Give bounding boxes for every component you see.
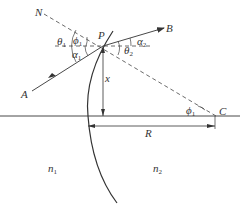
- x-arrow-down-icon: [101, 109, 105, 116]
- alpha1-arc: [85, 46, 88, 56]
- medium-n1-label: n1: [48, 163, 57, 176]
- point-p-label: P: [98, 30, 105, 41]
- x-dimension-label: x: [105, 73, 110, 84]
- medium-n2-label: n2: [153, 163, 162, 176]
- refraction-diagram: N P A B C θ1 ϕ1 α1 α2 θ2 ϕ1 x R n1 n2: [0, 0, 248, 209]
- phi1-arc: [86, 37, 87, 46]
- incident-arrow-icon: [48, 73, 56, 78]
- r-arrow-right-icon: [207, 124, 215, 128]
- diagram-graphics: [0, 0, 248, 209]
- theta2-arc: [118, 41, 120, 55]
- point-n-label: N: [35, 7, 42, 18]
- refracted-ray: [103, 28, 164, 46]
- phi1-label: ϕ1: [73, 35, 82, 48]
- theta2-label: θ2: [124, 45, 133, 58]
- alpha2-label: α2: [137, 36, 146, 49]
- phi1-c-label: ϕ1: [186, 105, 195, 118]
- alpha1-label: α1: [72, 49, 81, 62]
- normal-line: [44, 14, 216, 116]
- point-b-label: B: [166, 23, 173, 34]
- point-c-label: C: [219, 106, 226, 117]
- point-a-label: A: [21, 89, 28, 100]
- phi1-c-arc: [198, 106, 205, 110]
- theta1-label: θ1: [57, 36, 66, 49]
- incident-ray: [32, 46, 103, 91]
- r-dimension-label: R: [145, 128, 152, 139]
- spherical-surface: [88, 31, 117, 203]
